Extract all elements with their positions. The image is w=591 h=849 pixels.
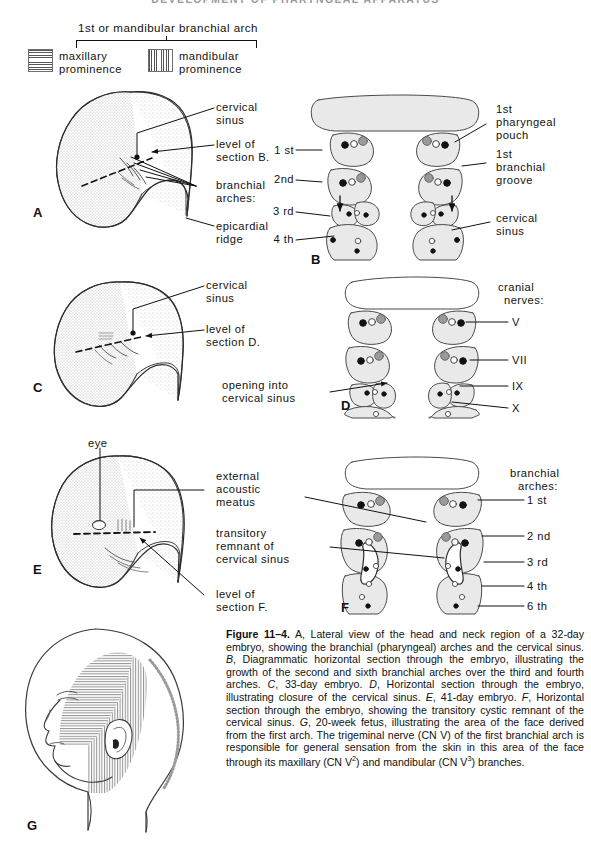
label-c-level-section-d-1: level of [206, 323, 245, 336]
label-b-pouch-2: pharyngeal [496, 116, 556, 129]
panel-f-section [305, 457, 524, 614]
panel-letter-c: C [33, 380, 43, 395]
label-e-eye: eye [88, 437, 107, 450]
panel-letter-a: A [33, 205, 43, 220]
label-f-arch-6th: 6 th [527, 600, 547, 613]
label-d-cn-vii: VII [512, 354, 527, 367]
label-b-groove-1: 1st [496, 148, 512, 161]
label-d-cn-v: V [512, 316, 520, 329]
caption-figure-number: Figure 11–4. [226, 628, 290, 640]
legend-bracket-right [256, 40, 257, 48]
figure-caption: Figure 11–4. A, Lateral view of the head… [226, 628, 584, 769]
label-f-arch-4th: 4 th [527, 580, 547, 593]
panel-e-embryo [52, 448, 204, 595]
label-b-cervical-sinus-2: sinus [496, 225, 524, 238]
label-c-cervical-sinus-2: sinus [206, 292, 234, 305]
label-a-level-section-b-1: level of [216, 138, 255, 151]
legend-label-maxillary-2: prominence [59, 63, 122, 76]
label-e-eam-2: acoustic [216, 483, 261, 496]
label-b-groove-3: groove [496, 174, 533, 187]
panel-letter-g: G [27, 818, 38, 833]
label-d-cranial-nerves-2: nerves: [504, 294, 544, 307]
legend-bracket-tick [166, 36, 167, 41]
label-e-level-section-f-1: level of [216, 588, 255, 601]
label-e-eam-3: meatus [216, 496, 255, 509]
figure-page: DEVELOPMENT OF PHARYNGEAL APPARATUS 1st … [0, 0, 591, 849]
label-d-opening-1: opening into [222, 379, 288, 392]
label-d-cranial-nerves-1: cranial [498, 281, 534, 294]
panel-letter-b: B [311, 252, 321, 267]
legend-label-mandibular-2: prominence [179, 63, 242, 76]
label-f-arch-2nd: 2 nd [527, 530, 551, 543]
label-e-transitory-1: transitory [216, 527, 267, 540]
label-a-epicardial-ridge-1: epicardial [216, 220, 268, 233]
legend-swatch-mandibular [148, 49, 173, 72]
label-d-cn-ix: IX [512, 380, 523, 393]
label-c-level-section-d-2: section D. [206, 336, 260, 349]
panel-letter-e: E [33, 562, 42, 577]
label-e-transitory-3: cervical sinus [216, 553, 289, 566]
panel-b-section [296, 95, 490, 260]
label-b-cervical-sinus-1: cervical [496, 212, 538, 225]
label-a-epicardial-ridge-2: ridge [216, 233, 243, 246]
panel-g-fetus [26, 629, 184, 832]
legend-label-mandibular-1: mandibular [179, 50, 239, 63]
label-d-cn-x: X [512, 402, 520, 415]
legend-bracket-left [76, 40, 77, 48]
label-b-arch-3rd: 3 rd [254, 205, 294, 218]
label-b-pouch-3: pouch [496, 129, 529, 142]
legend-label-maxillary-1: maxillary [59, 50, 107, 63]
label-b-groove-2: branchial [496, 161, 545, 174]
label-b-pouch-1: 1st [496, 103, 512, 116]
caption-body: A, Lateral view of the head and neck reg… [226, 628, 584, 768]
panel-c-embryo [54, 282, 204, 407]
label-a-branchial-arches-2: arches: [216, 192, 256, 205]
label-d-opening-2: cervical sinus [222, 392, 295, 405]
panel-letter-f: F [341, 600, 349, 615]
label-e-transitory-2: remnant of [216, 540, 274, 553]
label-f-branchial-arches-1: branchial [510, 467, 559, 480]
legend-swatch-maxillary [28, 49, 53, 72]
panel-letter-d: D [341, 398, 351, 413]
label-b-arch-4th: 4 th [254, 233, 294, 246]
label-e-level-section-f-2: section F. [216, 601, 268, 614]
label-a-cervical-sinus-1: cervical [216, 101, 258, 114]
label-b-arch-1st: 1 st [254, 144, 294, 157]
running-head: DEVELOPMENT OF PHARYNGEAL APPARATUS [0, 0, 591, 5]
label-c-cervical-sinus-1: cervical [206, 279, 248, 292]
label-e-eam-1: external [216, 470, 259, 483]
label-a-cervical-sinus-2: sinus [216, 114, 244, 127]
legend-title: 1st or mandibular branchial arch [28, 22, 308, 35]
label-f-arch-3rd: 3 rd [527, 556, 548, 569]
label-f-branchial-arches-2: arches: [518, 480, 558, 493]
panel-d-section [330, 277, 508, 418]
label-f-arch-1st: 1 st [527, 494, 547, 507]
panel-a-embryo [57, 92, 214, 228]
label-b-arch-2nd: 2nd [254, 173, 294, 186]
